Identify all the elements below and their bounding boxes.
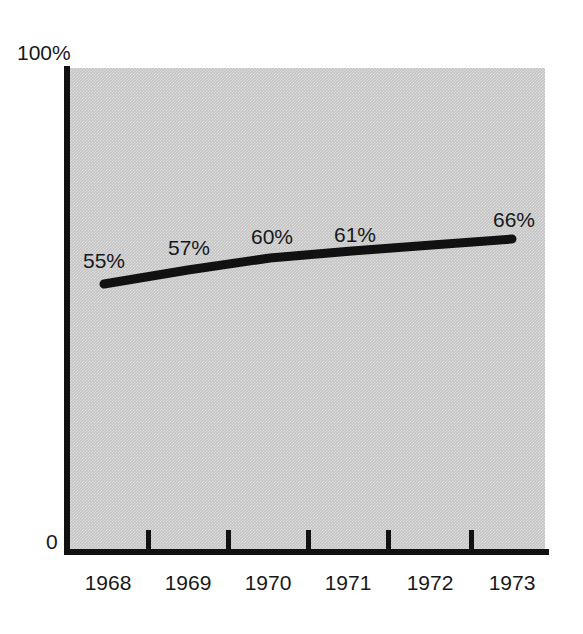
series-line	[0, 0, 583, 634]
data-label-1971: 61%	[315, 224, 395, 245]
data-label-1970: 60%	[232, 226, 312, 247]
line-chart: 100% 0 1968 1969 1970 1971 1972 1973 55%…	[0, 0, 583, 634]
data-label-1969: 57%	[149, 237, 229, 258]
data-label-1968: 55%	[64, 250, 144, 271]
data-label-1973: 66%	[474, 209, 554, 230]
